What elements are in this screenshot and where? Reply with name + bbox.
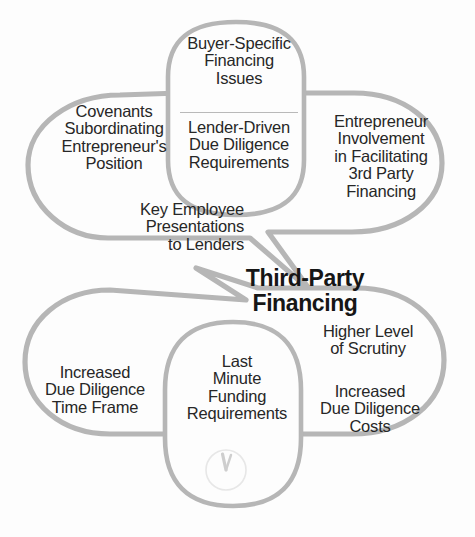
- diagram-title: Third-Party Financing: [221, 266, 389, 316]
- label-entrepreneur-involvement: Entrepreneur Involvement in Facilitating…: [306, 113, 456, 200]
- label-increased-due-diligence-time-frame: Increased Due Diligence Time Frame: [20, 364, 170, 416]
- label-last-minute-funding-requirements: Last Minute Funding Requirements: [172, 353, 302, 423]
- label-covenants-subordinating: Covenants Subordinating Entrepreneur's P…: [34, 103, 194, 173]
- label-key-employee-presentations: Key Employee Presentations to Lenders: [92, 201, 244, 253]
- label-increased-due-diligence-costs: Increased Due Diligence Costs: [300, 383, 440, 435]
- label-lender-driven-due-diligence: Lender-Driven Due Diligence Requirements: [171, 119, 307, 171]
- third-party-financing-diagram: Covenants Subordinating Entrepreneur's P…: [0, 0, 475, 537]
- label-higher-level-of-scrutiny: Higher Level of Scrutiny: [300, 323, 436, 358]
- label-buyer-specific-financing-issues: Buyer-Specific Financing Issues: [175, 35, 303, 87]
- capsule-divider: [180, 112, 298, 113]
